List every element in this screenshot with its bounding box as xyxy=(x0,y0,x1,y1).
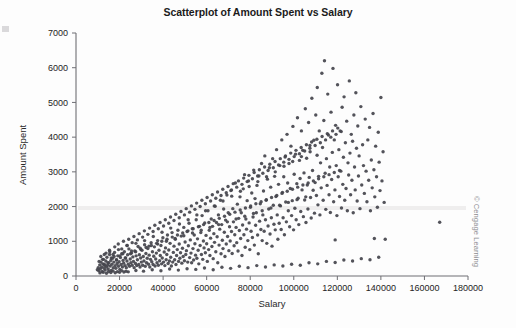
data-point xyxy=(258,168,261,171)
data-point xyxy=(167,222,170,225)
data-point xyxy=(240,183,243,186)
data-point xyxy=(334,133,337,136)
data-point xyxy=(234,226,237,229)
data-point xyxy=(215,235,218,238)
data-point xyxy=(213,204,216,207)
data-point xyxy=(285,133,288,136)
data-point xyxy=(291,188,294,191)
data-point xyxy=(110,256,113,259)
data-point xyxy=(254,224,257,227)
data-point xyxy=(298,152,301,155)
data-point xyxy=(300,129,303,132)
data-point xyxy=(141,235,144,238)
data-point xyxy=(174,213,177,216)
data-point xyxy=(232,182,235,185)
data-point xyxy=(162,224,165,227)
data-point xyxy=(200,253,203,256)
data-point xyxy=(104,251,107,254)
data-point xyxy=(326,92,329,95)
data-point xyxy=(202,223,205,226)
data-point xyxy=(327,173,330,176)
data-point xyxy=(263,165,266,168)
data-point xyxy=(172,219,175,222)
data-point xyxy=(304,195,307,198)
data-point xyxy=(221,247,224,250)
data-point xyxy=(270,196,273,199)
data-point xyxy=(340,206,343,209)
data-point xyxy=(155,242,158,245)
data-point xyxy=(289,144,292,147)
data-point xyxy=(367,178,370,181)
data-point xyxy=(371,112,374,115)
data-point xyxy=(295,198,298,201)
data-point xyxy=(223,231,226,234)
data-point xyxy=(134,242,137,245)
data-point xyxy=(340,130,343,133)
data-point xyxy=(277,222,280,225)
data-point xyxy=(153,245,156,248)
data-point xyxy=(317,177,320,180)
data-point xyxy=(187,222,190,225)
data-point xyxy=(152,255,155,258)
data-point xyxy=(195,257,198,260)
data-point xyxy=(369,209,372,212)
data-point xyxy=(325,184,328,187)
data-point xyxy=(204,202,207,205)
data-point xyxy=(207,221,210,224)
data-point xyxy=(346,161,349,164)
data-point xyxy=(302,215,305,218)
data-point xyxy=(321,146,324,149)
data-point xyxy=(293,207,296,210)
data-point xyxy=(316,262,319,265)
data-point xyxy=(246,266,249,269)
data-point xyxy=(310,216,313,219)
data-point xyxy=(279,157,282,160)
data-point xyxy=(297,223,300,226)
data-point xyxy=(186,218,189,221)
data-point xyxy=(103,263,106,266)
data-point xyxy=(146,257,149,260)
data-point xyxy=(183,240,186,243)
data-point xyxy=(275,148,278,151)
data-point xyxy=(373,195,376,198)
data-point xyxy=(129,252,132,255)
data-point xyxy=(370,158,373,161)
data-point xyxy=(182,226,185,229)
data-point xyxy=(337,148,340,151)
data-point xyxy=(353,165,356,168)
data-point xyxy=(226,185,229,188)
y-tick-label: 7000 xyxy=(48,28,68,38)
data-point xyxy=(164,258,167,261)
data-point xyxy=(222,207,225,210)
data-point xyxy=(218,227,221,230)
data-point xyxy=(360,183,363,186)
data-point xyxy=(337,175,340,178)
data-point xyxy=(164,246,167,249)
data-point xyxy=(108,249,111,252)
data-point xyxy=(226,235,229,238)
data-point xyxy=(308,150,311,153)
data-point xyxy=(382,201,385,204)
data-point xyxy=(370,186,373,189)
data-point xyxy=(346,209,349,212)
data-point xyxy=(212,268,215,271)
data-point xyxy=(136,238,139,241)
data-point xyxy=(136,258,139,261)
data-point xyxy=(303,149,306,152)
data-point xyxy=(274,170,277,173)
data-point xyxy=(230,194,233,197)
data-point xyxy=(232,244,235,247)
data-point xyxy=(255,184,258,187)
data-point xyxy=(357,154,360,157)
data-point xyxy=(125,244,128,247)
data-point xyxy=(326,132,329,135)
data-point xyxy=(319,161,322,164)
data-point xyxy=(143,239,146,242)
data-point xyxy=(293,173,296,176)
data-point xyxy=(120,247,123,250)
data-point xyxy=(201,258,204,261)
data-point xyxy=(221,199,224,202)
x-axis-title: Salary xyxy=(259,298,286,309)
data-point xyxy=(144,246,147,249)
data-point xyxy=(319,141,322,144)
